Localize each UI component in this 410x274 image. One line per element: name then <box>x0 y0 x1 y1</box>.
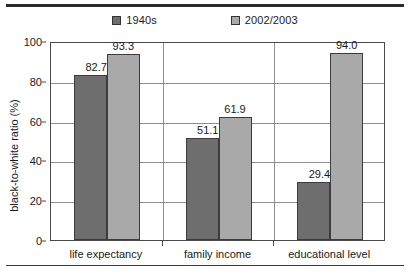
bar-value-label: 93.3 <box>113 41 134 52</box>
bar <box>74 75 107 240</box>
bar-value-label: 51.1 <box>197 125 218 136</box>
y-axis-tickmark <box>42 161 46 162</box>
legend-swatch-2002-2003 <box>231 16 240 25</box>
legend-item-1940s: 1940s <box>112 15 156 26</box>
bottom-divider-rule <box>6 265 404 266</box>
x-axis-tick-labels: life expectancyfamily incomeeducational … <box>50 248 385 264</box>
y-axis-tick-label: 40 <box>30 156 42 167</box>
legend-swatch-1940s <box>112 16 121 25</box>
top-divider-rule <box>6 4 404 7</box>
plot-area: 82.793.351.161.929.494.0 <box>50 42 385 241</box>
bars-layer: 82.793.351.161.929.494.0 <box>51 43 384 240</box>
y-axis-tick-labels: 020406080100 <box>0 42 46 241</box>
y-axis-tick-label: 60 <box>30 116 42 127</box>
x-axis-tickmark <box>273 241 274 246</box>
bar <box>330 53 363 240</box>
bar-value-label: 29.4 <box>309 169 330 180</box>
y-axis-tickmark <box>42 201 46 202</box>
y-axis-tick-label: 80 <box>30 76 42 87</box>
x-axis-category-label: life expectancy <box>69 248 142 260</box>
y-axis-tickmark <box>42 42 46 43</box>
chart-legend: 1940s 2002/2003 <box>0 11 410 29</box>
x-axis-category-label: family income <box>184 248 251 260</box>
bar-value-label: 61.9 <box>224 104 245 115</box>
bar <box>219 117 252 240</box>
legend-label-2002-2003: 2002/2003 <box>245 15 298 26</box>
bar <box>107 54 140 240</box>
y-axis-tick-label: 20 <box>30 196 42 207</box>
x-axis-tickmarks <box>50 241 385 247</box>
x-axis-tickmark <box>162 241 163 246</box>
y-axis-tick-label: 100 <box>24 37 42 48</box>
bar <box>186 138 219 240</box>
y-axis-tickmark <box>42 121 46 122</box>
legend-label-1940s: 1940s <box>126 15 156 26</box>
legend-item-2002-2003: 2002/2003 <box>231 15 298 26</box>
y-axis-tickmark <box>42 241 46 242</box>
bar <box>297 182 330 241</box>
x-axis-category-label: educational level <box>288 248 370 260</box>
bar-value-label: 94.0 <box>336 40 357 51</box>
bar-value-label: 82.7 <box>85 62 106 73</box>
y-axis-tickmark <box>42 81 46 82</box>
